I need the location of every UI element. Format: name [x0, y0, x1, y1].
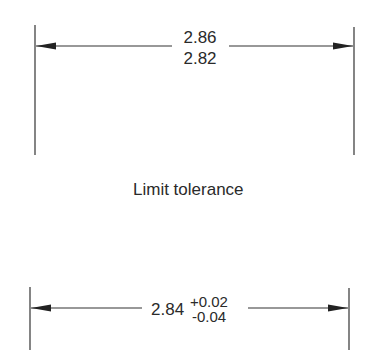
bottom-left-arrowhead-icon — [31, 305, 51, 312]
minus-tolerance-value: -0.04 — [192, 309, 226, 324]
top-right-arrowhead-icon — [333, 43, 353, 50]
bottom-right-arrowhead-icon — [328, 305, 348, 312]
nominal-value: 2.84 — [151, 301, 184, 318]
plus-tolerance-value: +0.02 — [190, 294, 228, 309]
upper-limit-value: 2.86 — [180, 29, 220, 46]
top-left-arrowhead-icon — [36, 43, 56, 50]
lower-limit-value: 2.82 — [180, 50, 220, 67]
caption-limit-tolerance: Limit tolerance — [133, 180, 244, 200]
